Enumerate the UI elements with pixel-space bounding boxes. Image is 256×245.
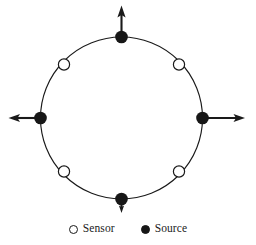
figure-container: Sensor Source xyxy=(0,0,256,245)
sensor-marker-upper-right xyxy=(173,59,184,70)
legend: Sensor Source xyxy=(0,218,256,240)
legend-item-source: Source xyxy=(141,223,188,235)
arrow-right-icon xyxy=(203,114,246,122)
sensor-marker-upper-left xyxy=(58,59,69,70)
source-marker-top xyxy=(115,31,128,44)
legend-label-source: Source xyxy=(155,223,188,235)
sensor-marker-lower-right xyxy=(173,166,184,177)
sensor-markers xyxy=(58,59,184,177)
ring-diagram xyxy=(0,0,256,245)
legend-item-sensor: Sensor xyxy=(69,223,115,235)
source-marker-left xyxy=(34,112,47,125)
sensor-marker-lower-left xyxy=(58,166,69,177)
legend-label-sensor: Sensor xyxy=(83,223,115,235)
source-marker-right xyxy=(196,112,209,125)
filled-circle-icon xyxy=(141,225,150,234)
source-markers xyxy=(34,31,209,206)
hollow-circle-icon xyxy=(69,225,78,234)
source-marker-bottom xyxy=(115,193,128,206)
